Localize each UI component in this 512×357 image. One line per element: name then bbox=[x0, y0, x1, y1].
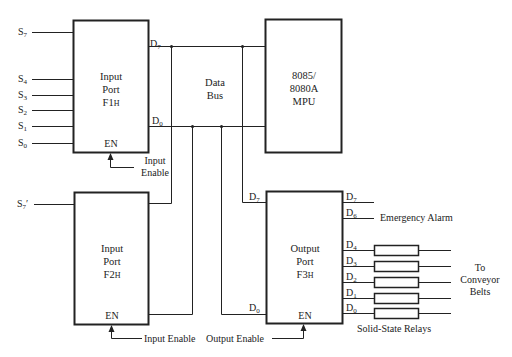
f3-out-d0-label: D0 bbox=[346, 302, 357, 317]
f2-enable-wire bbox=[112, 328, 143, 339]
s2-label: S2 bbox=[18, 104, 27, 119]
interfacing-diagram: S7 S4 S3 S2 S1 S0 S7′ Input Port F1H EN … bbox=[0, 0, 512, 357]
f3-out-d1-label: D1 bbox=[346, 287, 357, 302]
f3-out-d7-label: D7 bbox=[346, 191, 357, 206]
f3-out-d4-label: D4 bbox=[346, 239, 357, 254]
s3-label: S3 bbox=[18, 89, 27, 104]
f3-in-d0-label: D0 bbox=[249, 302, 260, 317]
arrow-up-icon bbox=[301, 324, 307, 331]
s1-label: S1 bbox=[18, 120, 27, 135]
f3-enable-label: Output Enable bbox=[206, 333, 264, 345]
f3-d7-wire bbox=[243, 46, 267, 203]
f1-d0-label: D0 bbox=[152, 115, 163, 130]
junction-dot bbox=[170, 45, 173, 48]
f1-d7-label: D7 bbox=[150, 38, 161, 53]
arrow-up-icon bbox=[108, 153, 114, 160]
relay-d0 bbox=[375, 309, 419, 319]
f2-enable-label: Input Enable bbox=[144, 333, 195, 345]
emergency-alarm-label: Emergency Alarm bbox=[380, 212, 453, 224]
f1-en-label: EN bbox=[74, 138, 148, 150]
relay-d1 bbox=[375, 294, 419, 304]
arrow-up-icon bbox=[109, 325, 115, 332]
s0-label: S0 bbox=[18, 137, 27, 152]
relay-d3 bbox=[375, 262, 419, 272]
f3-out-d3-label: D3 bbox=[346, 255, 357, 270]
f3-out-d6-label: D6 bbox=[346, 207, 357, 222]
relay-d2 bbox=[375, 278, 419, 288]
s7-label: S7 bbox=[18, 26, 27, 41]
s7-prime-label: S7′ bbox=[17, 198, 28, 213]
f1-enable-label: Input Enable bbox=[130, 155, 180, 179]
f3-out-d2-label: D2 bbox=[346, 271, 357, 286]
conveyor-belts-label: To Conveyor Belts bbox=[450, 262, 510, 298]
mpu-label: 8085/ 8080A MPU bbox=[266, 69, 342, 108]
input-port-f2-label: Input Port F2H bbox=[75, 242, 149, 282]
solid-state-relays-label: Solid-State Relays bbox=[357, 323, 431, 335]
relay-d4 bbox=[375, 246, 419, 256]
f2-en-label: EN bbox=[75, 310, 149, 322]
input-port-f1-label: Input Port F1H bbox=[74, 70, 148, 110]
junction-dot bbox=[191, 125, 194, 128]
output-port-f3-label: Output Port F3H bbox=[267, 242, 343, 282]
f3-d0-wire bbox=[222, 126, 267, 315]
junction-dot bbox=[241, 45, 244, 48]
s4-label: S4 bbox=[18, 73, 27, 88]
data-bus-label: Data Bus bbox=[190, 76, 240, 102]
f3-in-d7-label: D7 bbox=[249, 191, 260, 206]
junction-dot bbox=[220, 125, 223, 128]
f3-enable-wire bbox=[272, 328, 304, 339]
f3-en-label: EN bbox=[267, 310, 343, 322]
